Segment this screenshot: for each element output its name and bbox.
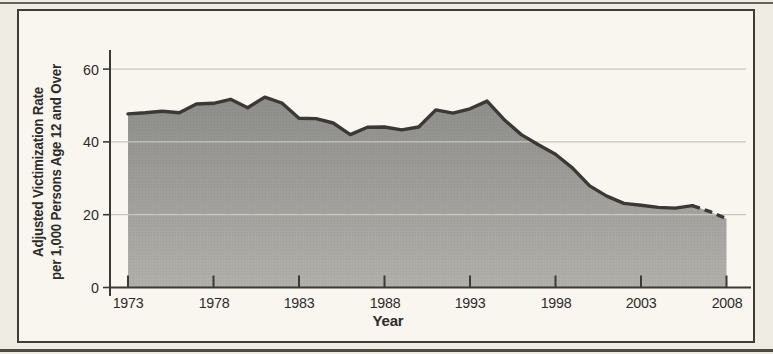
area-texture [128,97,727,287]
victimization-rate-chart: Adjusted Victimization Rate per 1,000 Pe… [0,0,773,354]
chart-canvas [0,0,773,354]
